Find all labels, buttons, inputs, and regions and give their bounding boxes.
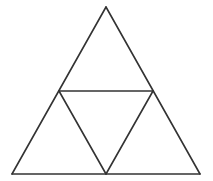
inner-right-edge [106, 91, 153, 174]
triangle-diagram [0, 0, 213, 181]
inner-left-edge [59, 91, 106, 174]
triangle-segments [12, 7, 200, 174]
